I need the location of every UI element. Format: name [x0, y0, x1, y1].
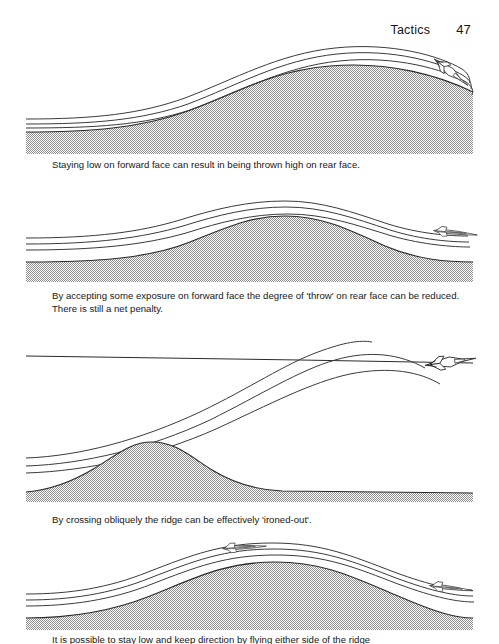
- terrain-fill-4: [26, 562, 473, 630]
- caption-panel-4: It is possible to stay low and keep dire…: [52, 634, 480, 644]
- caption-panel-3: By crossing obliquely the ridge can be e…: [52, 514, 480, 527]
- figure-panel-3: [0, 330, 499, 502]
- book-page: Tactics 47: [0, 0, 499, 644]
- figure-panel-4: [0, 540, 499, 630]
- header-inner: Tactics 47: [391, 22, 471, 37]
- ground-band-1: [26, 135, 473, 154]
- caption-panel-1: Staying low on forward face can result i…: [52, 159, 480, 172]
- flight-path-3c: [26, 370, 440, 473]
- aircraft-icon-panel-4-right: [429, 581, 474, 595]
- figure-panel-1: [0, 36, 499, 154]
- page-title: Tactics: [391, 23, 431, 37]
- figure-panel-2: [0, 196, 499, 282]
- terrain-fill-3: [26, 442, 473, 502]
- ground-band-2: [26, 264, 473, 282]
- caption-panel-2: By accepting some exposure on forward fa…: [52, 290, 480, 316]
- ground-band-3: [26, 494, 473, 502]
- page-number: 47: [456, 22, 471, 37]
- ground-band-4: [26, 620, 473, 630]
- aircraft-icon-panel-4-top: [222, 541, 267, 554]
- aircraft-icon-panel-2: [433, 226, 478, 239]
